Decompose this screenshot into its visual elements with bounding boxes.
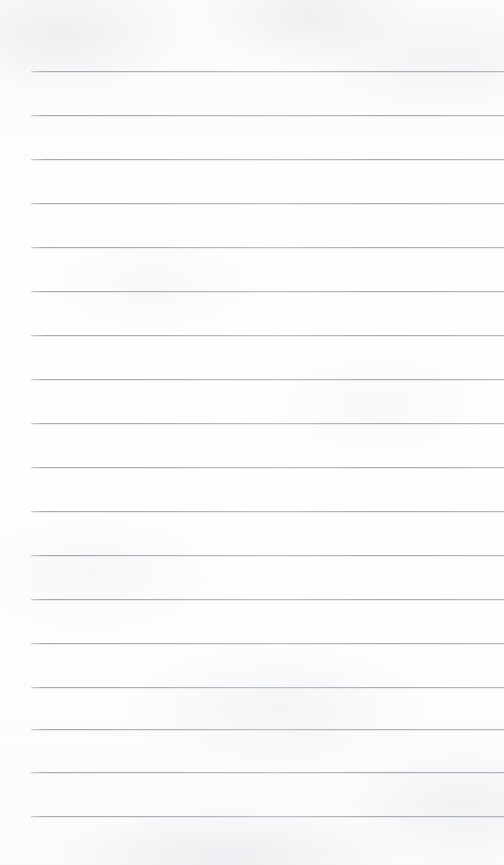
lined-paper-sheet	[0, 0, 504, 865]
ruled-line	[31, 816, 504, 817]
writing-area[interactable]	[31, 71, 504, 816]
